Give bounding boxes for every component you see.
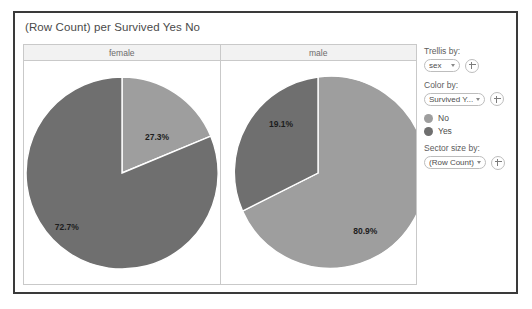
sector-size-by-dropdown[interactable]: (Row Count) — [424, 156, 486, 169]
visualization-window: (Row Count) per Survived Yes No female m… — [13, 11, 518, 294]
sector-size-by-value: (Row Count) — [429, 158, 474, 167]
trellis-header-male: male — [221, 45, 417, 60]
color-by-label: Color by: — [424, 80, 516, 90]
sector-size-by-label: Sector size by: — [424, 143, 516, 153]
page-title: (Row Count) per Survived Yes No — [25, 21, 200, 33]
color-legend: No Yes — [424, 113, 516, 136]
legend-item-yes[interactable]: Yes — [424, 126, 516, 136]
pie-chart-male[interactable]: 19.1% 80.9% — [220, 75, 416, 271]
sector-size-by-add-button[interactable] — [491, 156, 505, 170]
legend-label-yes: Yes — [438, 126, 452, 136]
pie-svg-female — [24, 75, 220, 271]
legend-item-no[interactable]: No — [424, 113, 516, 123]
pie-svg-male — [220, 75, 416, 271]
trellis-header-label: male — [309, 48, 327, 58]
trellis-header-row: female male — [24, 45, 416, 61]
chart-settings-panel: Trellis by: sex Color by: Survived Y... — [424, 46, 516, 177]
legend-label-no: No — [438, 113, 449, 123]
color-by-dropdown[interactable]: Survived Y... — [424, 93, 485, 106]
trellis-plot-area: female male 27.3% 72.7% — [23, 44, 417, 285]
legend-swatch-icon — [424, 114, 433, 123]
trellis-header-label: female — [109, 48, 135, 58]
control-group-trellis-by: Trellis by: sex — [424, 46, 516, 73]
chevron-down-icon — [451, 64, 455, 67]
trellis-by-dropdown[interactable]: sex — [424, 59, 460, 72]
trellis-header-female: female — [24, 45, 221, 60]
color-by-add-button[interactable] — [490, 92, 504, 106]
trellis-body-row: 27.3% 72.7% 19.1% 80.9% — [24, 61, 416, 284]
pie-panel-male: 19.1% 80.9% — [221, 61, 417, 284]
trellis-by-add-button[interactable] — [465, 59, 479, 73]
color-by-value: Survived Y... — [429, 95, 473, 104]
trellis-by-label: Trellis by: — [424, 46, 516, 56]
control-group-color-by: Color by: Survived Y... — [424, 80, 516, 107]
control-group-sector-size-by: Sector size by: (Row Count) — [424, 143, 516, 170]
pie-panel-female: 27.3% 72.7% — [24, 61, 221, 284]
trellis-by-value: sex — [429, 61, 448, 70]
legend-swatch-icon — [424, 127, 433, 136]
pie-chart-female[interactable]: 27.3% 72.7% — [24, 75, 220, 271]
chevron-down-icon — [476, 98, 480, 101]
chevron-down-icon — [477, 161, 481, 164]
